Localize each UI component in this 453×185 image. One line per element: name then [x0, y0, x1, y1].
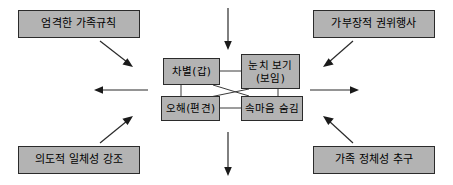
arrow-bottom-right-diagonal	[323, 116, 353, 143]
outer-box-bottom-right-label: 가족 정체성 추구	[335, 154, 414, 167]
arrow-top-center-down	[224, 8, 232, 50]
outer-box-bottom-right: 가족 정체성 추구	[313, 146, 435, 174]
outer-box-top-left-label: 엄격한 가족규칙	[41, 18, 116, 31]
arrow-bottom-center-down	[224, 132, 232, 176]
outer-box-top-right: 가부장적 권위행사	[313, 10, 435, 38]
inner-box-top-left-label: 차별(갑)	[172, 65, 211, 77]
outer-box-top-left: 엄격한 가족규칙	[18, 10, 140, 38]
inner-box-bottom-left-label: 오해(편견)	[166, 102, 215, 114]
outer-box-bottom-left: 의도적 일체성 강조	[18, 146, 140, 174]
arrow-left-horizontal	[94, 86, 148, 94]
arrow-right-horizontal	[310, 86, 359, 94]
inner-box-top-right-label-line1: 눈치 보기	[248, 59, 292, 71]
inner-box-top-right-label-line2: (보임)	[248, 72, 292, 84]
diagram-canvas: 엄격한 가족규칙 가부장적 권위행사 의도적 일체성 강조 가족 정체성 추구 …	[0, 0, 453, 185]
inner-box-bottom-left: 오해(편견)	[161, 96, 220, 121]
outer-box-top-right-label: 가부장적 권위행사	[331, 18, 416, 31]
inner-box-bottom-right: 속마음 숨김	[241, 96, 303, 121]
arrow-bottom-left-diagonal	[100, 116, 133, 143]
inner-box-bottom-right-label: 속마음 숨김	[245, 102, 300, 114]
arrow-top-right-diagonal	[323, 41, 353, 67]
outer-box-bottom-left-label: 의도적 일체성 강조	[35, 154, 124, 167]
inner-box-top-left: 차별(갑)	[163, 58, 220, 85]
arrow-top-left-diagonal	[100, 41, 133, 67]
inner-box-top-right-label-group: 눈치 보기 (보임)	[248, 59, 292, 83]
inner-box-top-right: 눈치 보기 (보임)	[241, 54, 300, 89]
